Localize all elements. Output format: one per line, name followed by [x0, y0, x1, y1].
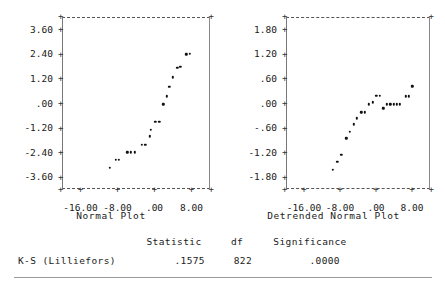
- data-point: [118, 158, 120, 160]
- plot-corner-tick-tl: +: [282, 12, 287, 21]
- horizontal-rule: [14, 277, 432, 278]
- data-point: [332, 169, 334, 171]
- data-point: [179, 65, 181, 67]
- data-point: [126, 151, 128, 153]
- y-axis-tick-label: -1.20: [248, 147, 277, 157]
- x-axis-tick: +.00: [373, 185, 378, 194]
- y-axis-tick: +1.20: [58, 74, 63, 83]
- data-point: [408, 95, 410, 97]
- y-axis-tick-label: 2.40: [30, 49, 53, 59]
- table-header-row: Statistic df Significance: [0, 236, 445, 255]
- y-axis-tick-label: -1.80: [248, 172, 277, 182]
- header-statistic: Statistic: [143, 236, 205, 247]
- y-axis-tick-label: .00: [36, 98, 53, 108]
- y-axis-tick: +-1.80: [282, 172, 287, 181]
- data-point: [172, 76, 174, 78]
- data-point: [154, 121, 156, 123]
- normal-plot-frame: + + + + +3.60+2.40+1.20+.00+-1.20+-2.40+…: [62, 17, 210, 189]
- data-point: [364, 111, 366, 113]
- y-axis-tick-label: -2.40: [24, 147, 53, 157]
- data-point: [404, 95, 406, 97]
- y-axis-tick: +-1.20: [58, 123, 63, 132]
- y-axis-tick-label: -.60: [254, 123, 277, 133]
- y-axis-tick: +-3.60: [58, 172, 63, 181]
- detrended-plot-frame: + + + + +1.80+1.20+.60+.00+-.60+-1.20+-1…: [286, 17, 430, 189]
- y-axis-tick: +.00: [282, 99, 287, 108]
- x-axis-tick: +-8.00: [337, 185, 342, 194]
- y-axis-tick-label: 3.60: [30, 25, 53, 35]
- data-point: [389, 103, 391, 105]
- data-point: [109, 166, 111, 168]
- data-point: [349, 130, 351, 132]
- y-axis-tick-label: .60: [260, 74, 277, 84]
- row-test-name: K-S (Lilliefors): [18, 255, 116, 266]
- row-significance: .0000: [278, 255, 340, 266]
- data-point: [356, 117, 358, 119]
- data-point: [165, 95, 167, 97]
- data-point: [141, 144, 143, 146]
- data-point: [150, 129, 152, 131]
- data-point: [114, 159, 116, 161]
- data-point: [395, 103, 397, 105]
- y-axis-tick-label: .00: [260, 98, 277, 108]
- data-point: [368, 103, 370, 105]
- y-axis-tick: +3.60: [58, 25, 63, 34]
- data-point: [345, 137, 347, 139]
- data-point: [162, 103, 164, 105]
- plot-corner-tick-br: +: [209, 185, 214, 194]
- data-point: [188, 53, 190, 55]
- data-point: [352, 123, 354, 125]
- normal-plot-panel: + + + + +3.60+2.40+1.20+.00+-1.20+-2.40+…: [0, 0, 222, 235]
- y-axis-tick-label: -3.60: [24, 172, 53, 182]
- y-axis-tick: +.00: [58, 99, 63, 108]
- data-point: [133, 151, 135, 153]
- x-axis-tick: +8.00: [409, 185, 414, 194]
- plot-corner-tick-bl: +: [58, 185, 63, 194]
- y-axis-tick-label: 1.20: [254, 49, 277, 59]
- y-axis-tick: +1.80: [282, 25, 287, 34]
- y-axis-tick-label: -1.20: [24, 123, 53, 133]
- plot-top-border: [286, 17, 430, 18]
- data-point: [411, 85, 413, 87]
- y-axis-tick-label: 1.80: [254, 25, 277, 35]
- y-axis-tick: +-1.20: [282, 148, 287, 157]
- header-df: df: [222, 236, 252, 247]
- data-point: [399, 103, 401, 105]
- data-point: [176, 67, 178, 69]
- y-axis-tick-label: 1.20: [30, 74, 53, 84]
- x-axis-tick: +.00: [152, 185, 157, 194]
- plot-corner-tick-br: +: [429, 185, 434, 194]
- data-point: [158, 121, 160, 123]
- plot-corner-tick-tr: +: [209, 12, 214, 21]
- x-axis-tick: +-16.00: [78, 185, 83, 194]
- header-significance: Significance: [272, 236, 348, 247]
- table-row: K-S (Lilliefors) .1575 822 .0000: [0, 255, 445, 274]
- plot-corner-tick-tr: +: [429, 12, 434, 21]
- data-point: [379, 95, 381, 97]
- data-point: [185, 53, 187, 55]
- row-df: 822: [222, 255, 252, 266]
- data-point: [144, 144, 146, 146]
- y-axis-tick: +2.40: [58, 49, 63, 58]
- data-point: [382, 107, 384, 109]
- y-axis-tick: +-.60: [282, 123, 287, 132]
- data-point: [168, 85, 170, 87]
- y-axis-tick: +.60: [282, 74, 287, 83]
- data-point: [392, 103, 394, 105]
- data-point: [149, 135, 151, 137]
- x-axis-tick: +-16.00: [301, 185, 306, 194]
- data-point: [375, 95, 377, 97]
- detrended-normal-plot-panel: + + + + +1.80+1.20+.60+.00+-.60+-1.20+-1…: [222, 0, 445, 235]
- data-point: [360, 111, 362, 113]
- plot-right-border: [429, 17, 430, 189]
- y-axis-tick: +1.20: [282, 49, 287, 58]
- x-axis-tick: +8.00: [189, 185, 194, 194]
- y-axis-tick: +-2.40: [58, 148, 63, 157]
- plot-corner-tick-tl: +: [58, 12, 63, 21]
- plot-right-border: [209, 17, 210, 189]
- normal-plot-title: Normal Plot: [0, 210, 222, 221]
- normality-test-table: Statistic df Significance K-S (Lilliefor…: [0, 236, 445, 274]
- data-point: [336, 161, 338, 163]
- data-point: [130, 151, 132, 153]
- data-point: [340, 154, 342, 156]
